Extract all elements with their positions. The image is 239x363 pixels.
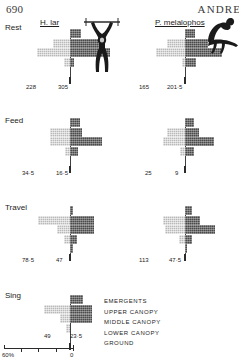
bar-right (70, 295, 83, 304)
stratum-row (137, 128, 233, 137)
bar-left (38, 216, 70, 225)
scale-tick-1 (21, 348, 22, 352)
bar-right (70, 314, 92, 323)
stratum-row (22, 118, 118, 127)
sample-marker-tick (184, 166, 186, 173)
leaf-monkey-silhouette-icon (196, 14, 239, 54)
bar-right (70, 58, 74, 67)
scale-tick-2 (38, 348, 39, 352)
sample-marker-tick (69, 166, 71, 173)
stratum-row (22, 216, 118, 225)
bar-left (66, 324, 70, 333)
bar-left (44, 305, 70, 314)
scale-axis-line (4, 348, 74, 349)
bar-right (185, 128, 199, 137)
bar-right (185, 29, 195, 38)
bar-left (163, 216, 185, 225)
bar-left (165, 225, 185, 234)
stratum-row (137, 216, 233, 225)
stratum-row (22, 235, 118, 244)
legend-item-middle-canopy: MIDDLE CANOPY (104, 317, 161, 328)
bar-right (70, 137, 102, 146)
stratum-row (22, 137, 118, 146)
bar-right (185, 147, 194, 156)
chart-panel-travel-pmel (137, 206, 233, 255)
stratum-row (137, 244, 233, 253)
bar-left (53, 39, 70, 48)
legend-item-lower-canopy: LOWER CANOPY (104, 328, 161, 339)
scale-tick-zero (73, 345, 74, 351)
scale-label-zero: 0 (70, 352, 73, 358)
sample-marker-tick (184, 254, 186, 261)
sample-marker-tick (184, 77, 186, 84)
scale-bar: 60% 0 (2, 345, 80, 361)
bar-right (185, 244, 187, 253)
sample-marker-tick (69, 77, 71, 84)
stratum-row (137, 118, 233, 127)
bar-left (50, 137, 70, 146)
page-folio: 690 (6, 3, 23, 15)
bar-left (156, 48, 185, 57)
stratum-row (22, 128, 118, 137)
legend-item-emergents: EMERGENTS (104, 296, 161, 307)
stratum-row (22, 225, 118, 234)
bar-right (70, 206, 73, 215)
bar-left (60, 314, 70, 323)
scale-tick-3 (56, 348, 57, 352)
stratum-row (137, 67, 233, 76)
chart-panel-travel-hlar (22, 206, 118, 255)
bar-right (70, 128, 82, 137)
stratum-row (137, 58, 233, 67)
bar-right (70, 225, 94, 234)
legend-item-upper-canopy: UPPER CANOPY (104, 307, 161, 318)
bar-left (167, 39, 185, 48)
stratum-row (137, 147, 233, 156)
stratum-row (22, 206, 118, 215)
activity-label-sing: Sing (5, 291, 21, 300)
gibbon-silhouette-icon (82, 14, 122, 76)
scale-tick-left (4, 345, 5, 349)
bar-left (163, 137, 185, 146)
bar-right (185, 235, 192, 244)
bar-left (167, 128, 185, 137)
bar-right (70, 29, 81, 38)
stratum-row (22, 156, 118, 165)
bar-right (185, 58, 196, 67)
activity-label-rest: Rest (5, 23, 21, 32)
bar-right (70, 235, 77, 244)
bar-right (70, 147, 78, 156)
activity-label-feed: Feed (5, 116, 23, 125)
bar-left (37, 48, 70, 57)
stratum-row (22, 244, 118, 253)
chart-panel-feed-pmel (137, 118, 233, 167)
sample-marker-tick (69, 254, 71, 261)
stratum-row (22, 147, 118, 156)
bar-right (185, 206, 192, 215)
species-heading-left: H. lar (40, 18, 59, 27)
stratum-row (137, 235, 233, 244)
bar-right (70, 305, 92, 314)
figure-page: 690 ANDRE H. lar P. melalophos Rest 228 … (0, 0, 239, 363)
stratum-row (137, 206, 233, 215)
bar-left (50, 128, 70, 137)
bar-right (185, 216, 200, 225)
bar-right (185, 137, 214, 146)
bar-right (185, 118, 194, 127)
chart-panel-feed-hlar (22, 118, 118, 167)
bar-right (70, 216, 94, 225)
bar-left (57, 225, 70, 234)
scale-label-left: 60% (2, 352, 14, 358)
legend-item-ground: GROUND (104, 338, 161, 349)
stratum-row (137, 137, 233, 146)
stratum-row (137, 225, 233, 234)
stratum-row (137, 156, 233, 165)
legend: EMERGENTS UPPER CANOPY MIDDLE CANOPY LOW… (104, 296, 161, 349)
bar-right (70, 244, 73, 253)
bar-right (185, 225, 215, 234)
bar-right (70, 118, 80, 127)
